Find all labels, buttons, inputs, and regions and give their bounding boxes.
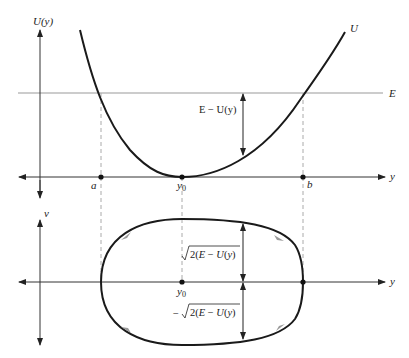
point-b [300, 174, 305, 179]
v-axis-label: v [44, 207, 49, 219]
upper-sqrt-label: 2(E − U(y) [182, 246, 240, 261]
label-a: a [91, 179, 97, 191]
svg-text:−: − [173, 308, 179, 319]
flow-arrow-upper-right [274, 235, 284, 241]
label-y0-top: y0 [176, 179, 186, 193]
curve-label: U [350, 22, 359, 34]
y-axis-top-label: y [389, 170, 395, 182]
label-y0-bottom: y0 [176, 285, 186, 299]
bottom-panel: v y 2(E − U(y) − 2(E − U(y) y0 [19, 207, 395, 345]
top-panel: E U(y) y U E − U(y) a y0 b [18, 15, 396, 282]
lower-sqrt-label: − 2(E − U(y) [173, 304, 240, 319]
svg-text:2(E − U(y): 2(E − U(y) [190, 249, 236, 261]
gap-label: E − U(y) [199, 104, 237, 116]
phase-diagram: E U(y) y U E − U(y) a y0 b v [0, 0, 409, 358]
energy-line-label: E [388, 87, 396, 99]
point-a [98, 174, 103, 179]
y-axis-bottom-label: y [389, 275, 395, 287]
point-y0-bottom [179, 279, 184, 284]
u-axis-label: U(y) [33, 15, 53, 28]
point-b-bottom [300, 279, 305, 284]
label-b: b [307, 178, 313, 190]
svg-text:2(E − U(y): 2(E − U(y) [190, 307, 236, 319]
